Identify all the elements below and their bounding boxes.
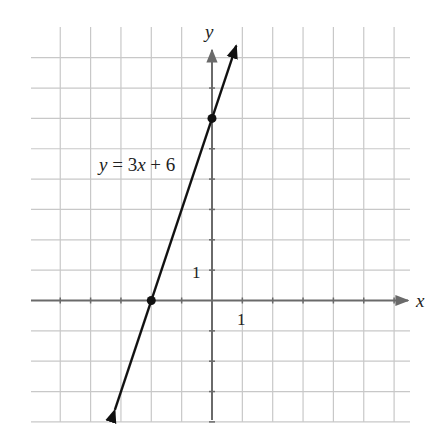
equation-label: y = 3x + 6 <box>97 154 175 175</box>
grid-lines <box>31 27 410 422</box>
intercept-point <box>208 114 217 123</box>
y-axis-label: y <box>203 21 214 42</box>
coordinate-plane: y x 1 1 y = 3x + 6 <box>0 0 448 445</box>
x-axis-label: x <box>415 290 425 311</box>
function-line <box>115 46 236 410</box>
intercept-point <box>147 296 156 305</box>
x-tick-label: 1 <box>237 310 246 329</box>
axis-ticks <box>60 88 394 422</box>
y-tick-label: 1 <box>192 263 201 282</box>
